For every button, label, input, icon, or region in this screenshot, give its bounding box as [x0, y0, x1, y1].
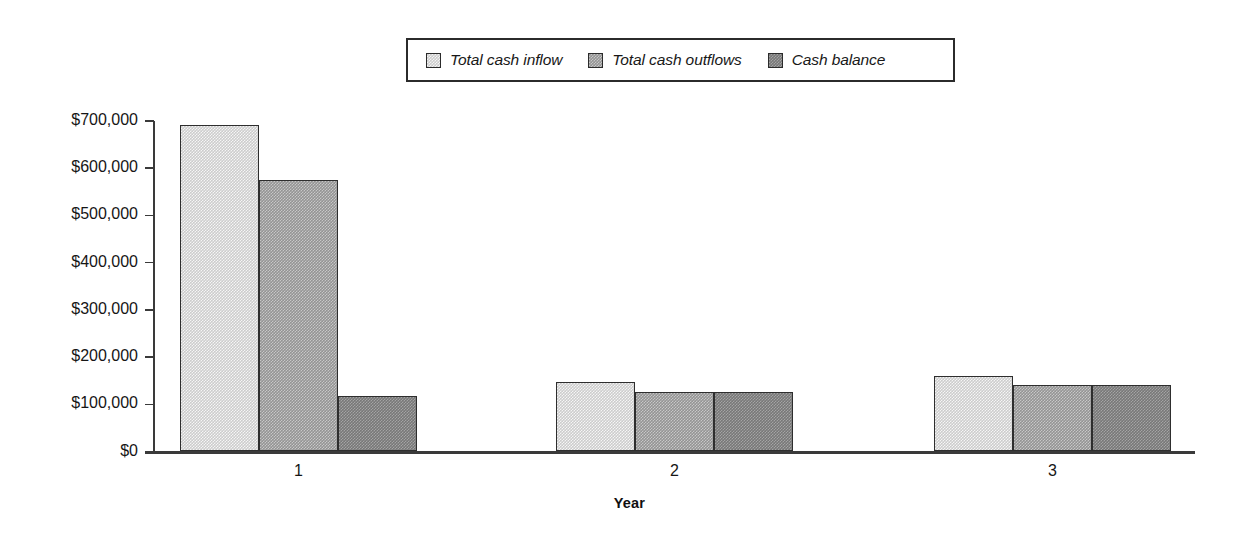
y-axis-tick-mark: [145, 120, 154, 122]
x-axis-tick-label-2: 2: [645, 462, 705, 480]
bar-inflow-year-2: [556, 382, 635, 452]
y-axis-tick-mark: [145, 215, 154, 217]
y-axis-tick-mark: [145, 356, 154, 358]
bar-balance-year-2: [714, 392, 793, 452]
y-axis-tick-label-text: $600,000: [71, 158, 138, 176]
bar-chart: Total cash inflow Total cash outflows Ca…: [0, 0, 1259, 552]
y-axis-tick-mark: [145, 309, 154, 311]
y-axis-tick-label-text: $100,000: [71, 394, 138, 412]
y-axis-tick-label-text: $400,000: [71, 253, 138, 271]
y-axis-tick-mark: [145, 167, 154, 169]
x-axis-title: Year: [0, 495, 1259, 511]
x-axis-tick-label-1: 1: [269, 462, 329, 480]
y-axis-tick-label-text: $200,000: [71, 347, 138, 365]
y-axis-tick-mark: [145, 451, 154, 453]
y-axis-tick-mark: [145, 404, 154, 406]
bar-inflow-year-1: [180, 125, 259, 452]
y-axis-tick-label-text: $300,000: [71, 300, 138, 318]
bar-outflow-year-1: [259, 180, 338, 451]
y-axis-tick-mark: [145, 262, 154, 264]
bar-inflow-year-3: [934, 376, 1013, 451]
bar-balance-year-1: [338, 396, 417, 452]
bar-outflow-year-3: [1013, 385, 1092, 451]
y-axis-tick-label-text: $0: [120, 442, 138, 460]
x-axis-tick-label-3: 3: [1023, 462, 1083, 480]
y-axis-tick-label-text: $500,000: [71, 205, 138, 223]
bar-balance-year-3: [1092, 385, 1171, 451]
bar-outflow-year-2: [635, 392, 714, 452]
plot-area: $0$100,000$200,000$300,000$400,000$500,0…: [0, 0, 1259, 552]
y-axis-tick-label-text: $700,000: [71, 111, 138, 129]
